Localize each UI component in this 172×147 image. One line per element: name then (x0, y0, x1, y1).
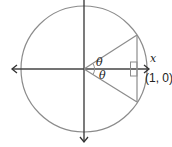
x-axis-label: x (150, 52, 157, 65)
upper-radius (84, 35, 137, 69)
lower-radius (84, 69, 137, 102)
point-label: (1, 0) (145, 71, 172, 85)
theta-upper-label: θ (96, 56, 103, 69)
unit-circle-diagram: θ θ x (1, 0) (0, 0, 172, 147)
theta-lower-label: θ (99, 69, 106, 82)
